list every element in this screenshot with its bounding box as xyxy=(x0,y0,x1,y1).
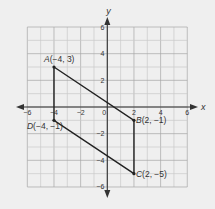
axes: x y xyxy=(16,6,206,198)
x-tick-label: −2 xyxy=(77,109,85,116)
vertex-a-dot xyxy=(52,65,55,68)
vertex-a-label: A(−4, 3) xyxy=(43,54,75,64)
y-tick-label: −2 xyxy=(96,130,104,137)
x-tick-label: 6 xyxy=(185,109,189,116)
vertex-d-label: D(−4, −1) xyxy=(27,121,63,131)
y-tick-label: 6 xyxy=(100,24,104,31)
x-axis-arrow-right-icon xyxy=(190,104,198,110)
y-tick-label: −4 xyxy=(96,157,104,164)
y-tick-label: 2 xyxy=(100,77,104,84)
coordinate-plane: x y −6−4−20246642−2−4−6 A(−4, 3)B(2, −1)… xyxy=(0,0,215,209)
x-tick-label: 0 xyxy=(102,109,106,116)
y-axis-label: y xyxy=(105,6,111,16)
y-tick-label: −6 xyxy=(96,183,104,190)
vertex-b-label: B(2, −1) xyxy=(136,115,167,125)
y-axis-arrow-up-icon xyxy=(104,17,110,25)
x-tick-label: −6 xyxy=(23,109,31,116)
y-axis-arrow-down-icon xyxy=(104,190,110,198)
vertex-c-label: C(2, −5) xyxy=(136,169,167,179)
y-tick-label: 4 xyxy=(100,50,104,57)
x-axis-label: x xyxy=(200,102,206,112)
